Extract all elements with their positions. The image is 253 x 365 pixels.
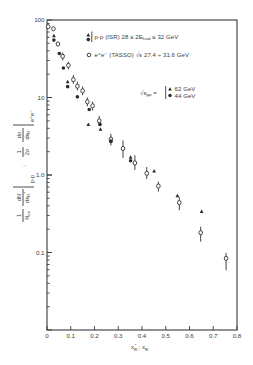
open-circle-point <box>199 231 203 235</box>
x-tick-label: 0.1 <box>66 332 75 339</box>
triangle-point <box>200 209 204 213</box>
x-tick-label: 0.7 <box>209 332 218 339</box>
triangle-point <box>99 127 103 131</box>
open-circle-point <box>46 25 50 29</box>
triangle-point <box>66 80 70 84</box>
y-tick-label: 1.0 <box>36 171 45 178</box>
filled-circle-point <box>109 140 113 144</box>
legend-44gev-label: 44 GeV <box>175 93 196 99</box>
y-axis-label: 1 Nev dN dxR* p-p ; 1 2σ dσ dxR e⁺e⁻ <box>13 110 35 222</box>
y-tick-label: 10 <box>38 94 45 101</box>
ylabel-n2-denominator: dxR* <box>23 192 32 203</box>
open-circle-point <box>157 184 161 188</box>
legend-ee: e⁺e⁻ (TASSO) √s 27.4 ÷ 31.6 GeV <box>87 52 189 58</box>
triangle-point <box>86 122 90 126</box>
x-tick-label: 0 <box>45 332 49 339</box>
x-axis-label: xR* ; xR <box>131 343 148 352</box>
ylabel-e2-denominator: dxR <box>24 130 31 139</box>
filled-circle-point <box>62 66 66 70</box>
ylabel-pp: p-p <box>29 175 35 183</box>
open-circle-point <box>72 78 76 82</box>
filled-circle-point <box>129 159 133 163</box>
ylabel-n2-numerator: dN <box>16 194 22 201</box>
open-circle-point <box>133 161 137 165</box>
chart-figure: 0.11.010100 00.10.20.30.40.50.60.70.8 p-… <box>0 0 253 365</box>
filled-circle-point <box>52 38 56 42</box>
ylabel-ee: e⁺e⁻ <box>29 110 35 122</box>
ylabel-e1-numerator: 1 <box>16 150 22 153</box>
open-circle-point <box>76 84 80 88</box>
x-tick-label: 0.4 <box>138 332 147 339</box>
filled-circle-point <box>87 108 91 112</box>
legend-62gev-label: 62 GeV <box>175 86 196 92</box>
triangle-point <box>152 169 156 173</box>
filled-circle-point <box>58 52 62 56</box>
ylabel-n1-denominator: Nev <box>24 210 31 219</box>
open-circle-point <box>67 63 71 67</box>
y-tick-label: 100 <box>34 16 45 23</box>
x-tick-label: 0.6 <box>185 332 194 339</box>
y-axis-ticks: 0.11.010100 <box>34 16 52 330</box>
triangle-marker-icon <box>86 33 90 36</box>
open-circle-point <box>224 256 228 260</box>
ylabel-separator: ; <box>20 165 26 167</box>
filled-circle-point <box>98 123 102 127</box>
open-circle-point <box>52 27 56 31</box>
triangle-point <box>129 155 133 159</box>
filled-circle-point <box>76 95 80 99</box>
legend-ee-label: e⁺e⁻ (TASSO) √s 27.4 ÷ 31.6 GeV <box>95 52 190 58</box>
x-tick-label: 0.2 <box>90 332 99 339</box>
x-tick-label: 0.8 <box>233 332 242 339</box>
filled-circle-point <box>66 85 70 89</box>
open-circle-point <box>61 54 65 58</box>
ylabel-e1-denominator: 2σ <box>24 148 30 155</box>
legend-sqrt-s-label: √spp = <box>140 90 157 98</box>
open-circle-marker-icon <box>87 53 91 57</box>
open-circle-point <box>97 119 101 123</box>
open-circle-point <box>56 42 60 46</box>
open-circle-point <box>121 146 125 150</box>
x-axis-ticks: 00.10.20.30.40.50.60.70.8 <box>45 326 242 339</box>
triangle-point <box>52 34 56 38</box>
open-circle-point <box>177 201 181 205</box>
open-circle-point <box>81 89 85 93</box>
open-circle-point <box>91 104 95 108</box>
ylabel-n1-numerator: 1 <box>16 214 22 217</box>
legend-energy: √spp = 62 GeV 44 GeV <box>140 86 195 99</box>
ylabel-e2-numerator: dσ <box>16 131 22 138</box>
x-tick-label: 0.3 <box>114 332 123 339</box>
triangle-marker-icon <box>168 87 172 90</box>
legend-pp: p-p (ISR) 28 ≤ 2Ehad ≤ 32 GeV <box>86 32 178 43</box>
triangle-point <box>175 194 179 198</box>
plot-frame <box>47 20 237 330</box>
open-circle-point <box>86 100 90 104</box>
y-tick-label: 0.1 <box>36 249 45 256</box>
x-tick-label: 0.5 <box>161 332 170 339</box>
filled-circle-marker-icon <box>87 38 91 42</box>
filled-circle-marker-icon <box>168 94 171 97</box>
legend-pp-label: p-p (ISR) 28 ≤ 2Ehad ≤ 32 GeV <box>95 34 179 42</box>
open-circle-point <box>145 171 149 175</box>
data-points <box>46 25 227 271</box>
